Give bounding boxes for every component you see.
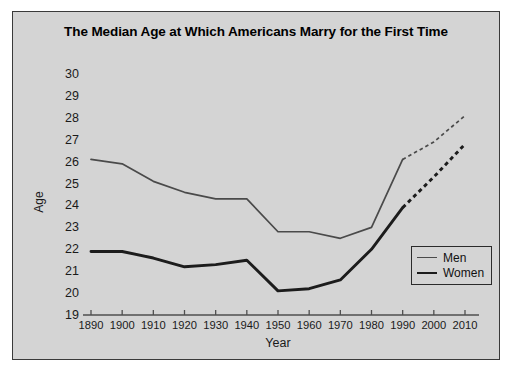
chart-figure: The Median Age at Which Americans Marry …	[12, 11, 500, 360]
y-axis-tick-19: 19	[53, 308, 79, 322]
series-line-women	[91, 208, 403, 291]
legend-item-men: Men	[417, 250, 484, 265]
legend-label-men: Men	[443, 251, 466, 265]
series-line-men	[91, 159, 403, 238]
x-axis-tick-1910: 1910	[141, 319, 166, 331]
y-axis-tick-21: 21	[53, 264, 79, 278]
y-axis-label: Age	[32, 172, 46, 232]
y-axis-tick-22: 22	[53, 242, 79, 256]
x-axis-tick-1960: 1960	[297, 319, 322, 331]
x-axis-tick-2000: 2000	[421, 319, 446, 331]
x-axis-tick-1900: 1900	[110, 319, 135, 331]
x-axis-tick-1990: 1990	[390, 319, 415, 331]
plot-area: 1920212223242526272829301890190019101920…	[13, 12, 499, 359]
y-axis-tick-24: 24	[53, 198, 79, 212]
x-axis-tick-1920: 1920	[172, 319, 197, 331]
legend-item-women: Women	[417, 265, 484, 280]
x-axis-tick-1930: 1930	[203, 319, 228, 331]
series-projection-women	[403, 144, 465, 208]
chart-svg	[13, 12, 501, 361]
legend-label-women: Women	[443, 266, 484, 280]
x-axis-label: Year	[91, 336, 465, 350]
x-axis-tick-1970: 1970	[328, 319, 353, 331]
y-axis-tick-23: 23	[53, 220, 79, 234]
x-axis-tick-1950: 1950	[266, 319, 291, 331]
x-axis-tick-1890: 1890	[79, 319, 104, 331]
x-axis-tick-1940: 1940	[234, 319, 259, 331]
y-axis-tick-26: 26	[53, 155, 79, 169]
x-axis-tick-2010: 2010	[453, 319, 478, 331]
y-axis-tick-27: 27	[53, 133, 79, 147]
y-axis-tick-20: 20	[53, 286, 79, 300]
x-axis-tick-1980: 1980	[359, 319, 384, 331]
y-axis-tick-25: 25	[53, 177, 79, 191]
legend-line-men-icon	[417, 257, 437, 258]
legend-line-women-icon	[417, 272, 437, 274]
y-axis-tick-30: 30	[53, 67, 79, 81]
y-axis-tick-29: 29	[53, 89, 79, 103]
y-axis-tick-28: 28	[53, 111, 79, 125]
chart-legend: Men Women	[411, 246, 492, 285]
